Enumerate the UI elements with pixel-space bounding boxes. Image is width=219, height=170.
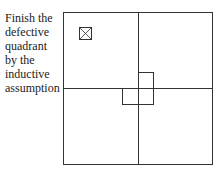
tromino-square-top-right — [139, 73, 154, 89]
tromino-square-bottom-right — [139, 89, 154, 105]
defect-marker-icon — [80, 28, 92, 40]
quadrant-diagram — [0, 0, 219, 170]
center-tromino — [123, 73, 154, 105]
tromino-square-bottom-left — [123, 89, 139, 105]
